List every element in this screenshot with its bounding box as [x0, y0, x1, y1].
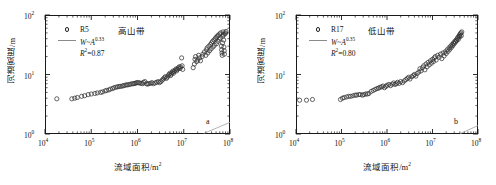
- data-point: [310, 97, 314, 101]
- legend-row-r2-a: R2=0.87: [57, 46, 105, 57]
- x-tick-label: 108: [471, 137, 481, 148]
- zone-label-a: 高山带: [118, 24, 145, 36]
- y-tick-label: 102: [275, 10, 285, 21]
- y-tick-label: 100: [24, 129, 34, 140]
- data-point: [304, 98, 308, 102]
- panel-tag-a: a: [206, 117, 210, 126]
- x-tick-label: 106: [131, 137, 141, 148]
- x-tick-label: 104: [38, 137, 48, 148]
- data-point: [70, 97, 74, 101]
- legend-r2-b: R2=0.80: [328, 45, 356, 59]
- x-tick-label: 108: [223, 137, 233, 148]
- x-tick-label: 105: [335, 137, 345, 148]
- x-tick-label: 106: [380, 137, 390, 148]
- data-point: [180, 56, 184, 60]
- panel-a: 河道宽度/m 流域面积/m2 R5 W~A0.33 R2=0.87 高山带 a …: [0, 0, 248, 185]
- y-tick-label: 101: [24, 70, 34, 81]
- y-tick-label: 100: [275, 129, 285, 140]
- y-axis-label-a: 河道宽度/m: [6, 38, 18, 83]
- x-tick-label: 107: [177, 137, 187, 148]
- y-axis-label-b: 河道宽度/m: [256, 38, 268, 83]
- legend-line-icon-a: [57, 40, 77, 41]
- data-point: [298, 98, 302, 102]
- data-point: [75, 95, 79, 99]
- data-point: [198, 59, 202, 63]
- legend-circle-icon-b: [308, 27, 328, 32]
- figure-two-panel-scatter: 河道宽度/m 流域面积/m2 R5 W~A0.33 R2=0.87 高山带 a …: [0, 0, 496, 185]
- x-tick-label: 105: [84, 137, 94, 148]
- zone-label-b: 低山带: [368, 24, 395, 36]
- legend-circle-icon-a: [57, 27, 77, 32]
- panel-tag-b: b: [454, 117, 458, 126]
- panel-b: 河道宽度/m 流域面积/m2 R17 W~A0.35 R2=0.80 低山带 b…: [248, 0, 496, 185]
- x-axis-label-b: 流域面积/m2: [296, 160, 478, 172]
- legend-b: R17 W~A0.35 R2=0.80: [308, 24, 356, 57]
- legend-r2-a: R2=0.87: [77, 45, 105, 59]
- legend-row-r2-b: R2=0.80: [308, 46, 356, 57]
- data-point: [55, 97, 59, 101]
- y-tick-label: 101: [275, 70, 285, 81]
- legend-a: R5 W~A0.33 R2=0.87: [57, 24, 105, 57]
- legend-line-icon-b: [308, 40, 328, 41]
- x-tick-label: 107: [426, 137, 436, 148]
- x-tick-label: 104: [289, 137, 299, 148]
- x-axis-label-a: 流域面积/m2: [45, 160, 230, 172]
- y-tick-label: 102: [24, 10, 34, 21]
